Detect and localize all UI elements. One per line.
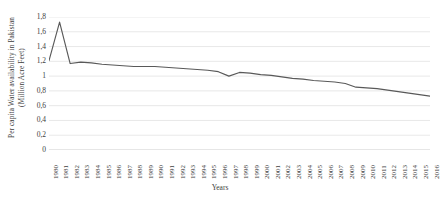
chart-container: Per capita Water availability in Pakista… (0, 0, 440, 199)
data-series-line (49, 22, 430, 96)
plot-area (49, 17, 430, 150)
x-axis-tick-label: 2012 (390, 149, 398, 179)
x-axis-tick-label: 1991 (168, 149, 176, 179)
y-axis-tick-label: 1,2 (20, 57, 46, 65)
x-axis-tick-label: 2006 (327, 149, 335, 179)
gridlines (49, 17, 430, 150)
line-chart-svg (49, 17, 430, 150)
y-axis-tick-label: 0,2 (20, 131, 46, 139)
x-axis-tick-label: 1980 (52, 149, 60, 179)
x-axis-tick-label: 2011 (380, 149, 388, 179)
x-axis-tick-label: 1998 (242, 149, 250, 179)
y-axis-tick-labels: 00,20,40,60,811,21,41,61,8 (16, 0, 46, 199)
x-axis-tick-label: 2007 (337, 149, 345, 179)
x-axis-tick-label: 2003 (295, 149, 303, 179)
x-axis-tick-label: 2015 (422, 149, 430, 179)
x-axis-tick-label: 1985 (105, 149, 113, 179)
y-axis-tick-label: 0 (20, 146, 46, 154)
x-axis-tick-label: 1982 (73, 149, 81, 179)
x-axis-tick-label: 2009 (359, 149, 367, 179)
x-axis-tick-label: 1999 (253, 149, 261, 179)
x-axis-tick-label: 1995 (210, 149, 218, 179)
x-axis-tick-label: 2000 (263, 149, 271, 179)
x-axis-tick-label: 2016 (433, 149, 440, 179)
x-axis-tick-label: 1990 (157, 149, 165, 179)
x-axis-tick-label: 2013 (401, 149, 409, 179)
y-axis-tick-label: 1,6 (20, 28, 46, 36)
y-axis-tick-label: 0,8 (20, 87, 46, 95)
x-axis-tick-label: 2005 (316, 149, 324, 179)
x-axis-tick-label: 2008 (348, 149, 356, 179)
y-axis-tick-label: 0,6 (20, 102, 46, 110)
x-axis-tick-labels: 1980198119821983198419851986198719881989… (49, 152, 430, 182)
x-axis-tick-label: 1993 (189, 149, 197, 179)
x-axis-tick-label: 1994 (200, 149, 208, 179)
y-axis-tick-label: 1,4 (20, 43, 46, 51)
x-axis-tick-label: 2001 (274, 149, 282, 179)
x-axis-tick-label: 1997 (232, 149, 240, 179)
x-axis-tick-label: 1981 (62, 149, 70, 179)
x-axis-tick-label: 1988 (136, 149, 144, 179)
x-axis-tick-label: 1986 (115, 149, 123, 179)
x-axis-tick-label: 1992 (179, 149, 187, 179)
x-axis-tick-label: 1989 (147, 149, 155, 179)
y-axis-tick-label: 1,8 (20, 13, 46, 21)
x-axis-tick-label: 1987 (126, 149, 134, 179)
x-axis-title: Years (0, 183, 440, 192)
x-axis-tick-label: 2010 (369, 149, 377, 179)
x-axis-tick-label: 1984 (94, 149, 102, 179)
x-axis-tick-label: 2002 (284, 149, 292, 179)
x-axis-tick-label: 1983 (83, 149, 91, 179)
y-axis-tick-label: 1 (20, 72, 46, 80)
x-axis-tick-label: 1996 (221, 149, 229, 179)
x-axis-tick-label: 2004 (306, 149, 314, 179)
y-axis-tick-label: 0,4 (20, 116, 46, 124)
x-axis-tick-label: 2014 (411, 149, 419, 179)
